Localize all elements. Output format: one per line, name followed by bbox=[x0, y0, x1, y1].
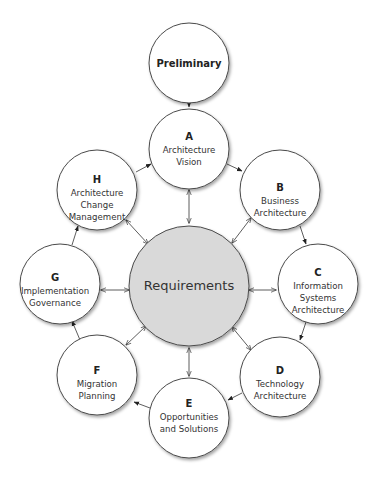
phase-b-letter: B bbox=[276, 182, 284, 193]
node-phase-d: D Technology Architecture bbox=[240, 337, 320, 417]
arrow-g-to-h bbox=[72, 226, 78, 245]
phase-a-line2: Vision bbox=[176, 157, 202, 167]
node-phase-h: H Architecture Change Management bbox=[57, 150, 137, 230]
node-requirements: Requirements bbox=[129, 226, 249, 346]
phase-c-line2: Systems bbox=[300, 293, 337, 303]
phase-f-line2: Planning bbox=[78, 391, 115, 401]
arrow-req-h bbox=[126, 220, 148, 244]
phase-c-letter: C bbox=[314, 267, 321, 278]
node-phase-a: A Architecture Vision bbox=[149, 109, 229, 189]
arrow-a-to-b bbox=[227, 164, 242, 171]
phase-h-line1: Architecture bbox=[71, 188, 124, 198]
phase-h-line3: Management bbox=[69, 212, 126, 222]
phase-e-line1: Opportunities bbox=[160, 412, 219, 422]
arrow-e-to-f bbox=[134, 402, 150, 408]
phase-c-line1: Information bbox=[293, 281, 343, 291]
arrow-b-to-c bbox=[300, 226, 306, 244]
phase-g-letter: G bbox=[51, 272, 59, 283]
phase-g-line1: Implementation bbox=[21, 286, 89, 296]
phase-d-line2: Architecture bbox=[254, 391, 307, 401]
requirements-label: Requirements bbox=[144, 278, 235, 293]
phase-a-letter: A bbox=[185, 131, 193, 142]
arrow-f-to-g bbox=[72, 321, 80, 340]
phase-e-letter: E bbox=[186, 398, 193, 409]
phase-b-line1: Business bbox=[261, 196, 299, 206]
node-phase-b: B Business Architecture bbox=[240, 150, 320, 230]
phase-d-letter: D bbox=[276, 365, 284, 376]
phase-c-line3: Architecture bbox=[292, 305, 345, 315]
node-preliminary: Preliminary bbox=[149, 23, 229, 103]
phase-f-letter: F bbox=[94, 365, 101, 376]
arrow-req-f bbox=[126, 326, 146, 345]
phase-f-line1: Migration bbox=[77, 379, 118, 389]
preliminary-label: Preliminary bbox=[156, 58, 222, 69]
phase-h-line2: Change bbox=[81, 200, 114, 210]
node-phase-c: C Information Systems Architecture bbox=[278, 244, 358, 324]
arrow-c-to-d bbox=[300, 322, 306, 340]
node-phase-g: G Implementation Governance bbox=[20, 244, 100, 324]
node-phase-f: F Migration Planning bbox=[57, 335, 137, 415]
phase-b-line2: Architecture bbox=[254, 208, 307, 218]
phase-d-line1: Technology bbox=[255, 379, 304, 389]
node-phase-e: E Opportunities and Solutions bbox=[149, 378, 229, 458]
arrow-req-d bbox=[232, 327, 251, 350]
phase-a-line1: Architecture bbox=[163, 145, 216, 155]
adm-cycle-diagram: Preliminary Requirements A Architecture … bbox=[0, 0, 377, 485]
phase-e-line2: and Solutions bbox=[160, 424, 219, 434]
phase-g-line2: Governance bbox=[29, 298, 81, 308]
arrow-req-b bbox=[232, 218, 251, 243]
phase-h-letter: H bbox=[93, 174, 101, 185]
arrow-h-to-a bbox=[136, 164, 151, 172]
arrow-d-to-e bbox=[228, 393, 242, 400]
